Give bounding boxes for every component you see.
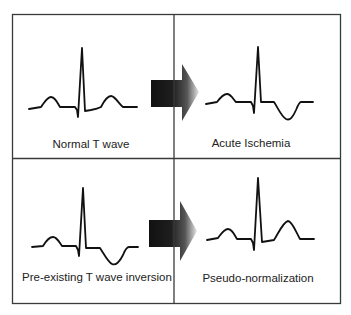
panel-pseudo-normalization: Pseudo-normalization [202,178,314,284]
arrow-right-icon [149,201,197,261]
panel-label-acute-ischemia: Acute Ischemia [212,137,291,149]
arrow-right-icon [151,64,199,121]
panel-label-pseudo-normalization: Pseudo-normalization [202,272,313,284]
ecg-diagram: Normal T wave Acute Ischemia Pre-existin… [0,0,351,315]
panel-label-normal: Normal T wave [53,138,130,150]
ecg-trace-acute-ischemia [206,47,313,120]
ecg-trace-pre-existing-inversion [32,188,138,264]
transition-arrow-top [151,64,199,121]
transition-arrow-bottom [149,201,197,261]
ecg-trace-normal [29,48,137,117]
ecg-trace-pseudo-normalization [207,178,314,250]
panel-normal: Normal T wave [29,48,137,150]
panel-label-pre-existing-inversion: Pre-existing T wave inversion [22,271,172,283]
panel-acute-ischemia: Acute Ischemia [206,47,313,149]
panel-grid [13,15,341,304]
